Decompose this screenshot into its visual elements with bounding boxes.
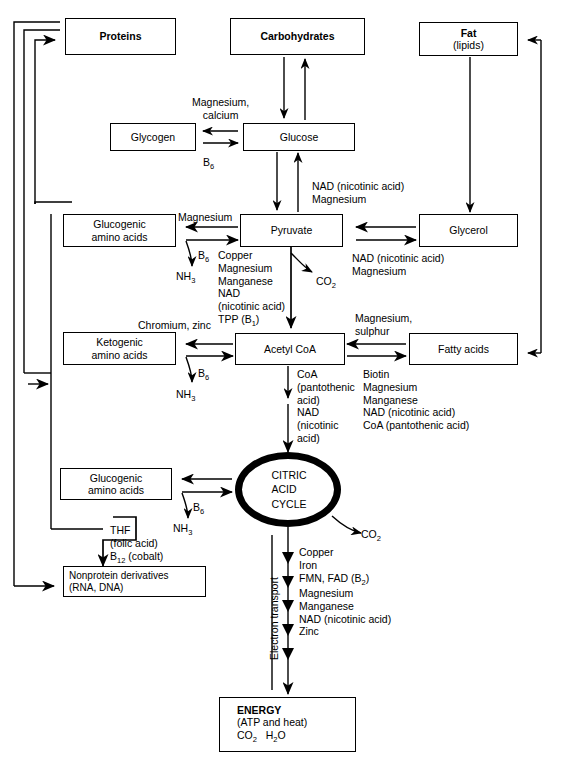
label-magnesium-sulphur: Magnesium,sulphur xyxy=(355,312,412,338)
label-b6-cycle-glucogenic: B6 xyxy=(193,501,204,516)
label-nh3-ketogenic: NH3 xyxy=(176,388,195,403)
node-glucogenic-1-line2: amino acids xyxy=(91,231,147,243)
node-fat-label: Fat xyxy=(461,27,477,39)
label-nh3-cycle-glucogenic: NH3 xyxy=(173,522,192,537)
node-pyruvate[interactable]: Pyruvate xyxy=(240,214,343,247)
label-fatty-acid-cofactors: Biotin Magnesium Manganese NAD (nicotini… xyxy=(363,368,469,432)
citric-line2: ACID xyxy=(271,482,306,496)
node-ketogenic-line1: Ketogenic xyxy=(96,336,143,348)
node-energy-line1: ENERGY xyxy=(237,704,281,716)
label-co2-cycle: CO2 xyxy=(361,528,381,543)
node-ketogenic-amino-acids[interactable]: Ketogenic amino acids xyxy=(63,332,176,365)
node-energy-line2: (ATP and heat) xyxy=(237,716,307,728)
node-glucogenic-amino-acids-2[interactable]: Glucogenic amino acids xyxy=(60,468,172,500)
node-glucogenic-2-line1: Glucogenic xyxy=(90,472,143,484)
node-energy-line3: CO2 H2O xyxy=(237,729,286,745)
citric-acid-cycle-text: CITRIC ACID CYCLE xyxy=(269,468,306,511)
label-acetyl-to-cycle-cofactors: CoA(pantothenicacid)NAD(nicotinicacid) xyxy=(297,368,355,445)
citric-line3: CYCLE xyxy=(271,497,306,511)
label-b6-ketogenic: B6 xyxy=(198,367,209,382)
label-magnesium-calcium: Magnesium,calcium xyxy=(192,96,249,122)
node-ketogenic-line2: amino acids xyxy=(91,349,147,361)
node-glycerol-label: Glycerol xyxy=(449,224,488,236)
label-electron-transport: Electron transport xyxy=(268,577,280,660)
node-glucose-label: Glucose xyxy=(280,131,319,143)
figure-canvas: Proteins Carbohydrates Fat (lipids) Glyc… xyxy=(0,0,578,764)
node-glycerol[interactable]: Glycerol xyxy=(419,214,518,247)
node-glucogenic-2-line2: amino acids xyxy=(88,484,144,496)
label-chromium-zinc: Chromium, zinc xyxy=(138,319,211,332)
node-glucose[interactable]: Glucose xyxy=(243,123,355,151)
node-fat-sublabel: (lipids) xyxy=(453,39,484,51)
node-proteins[interactable]: Proteins xyxy=(65,18,176,55)
label-electron-transport-cofactors: Copper Iron FMN, FAD (B2) Magnesium Mang… xyxy=(299,546,391,638)
label-pyruvate-to-acetyl-cofactors: Copper Magnesium Manganese NAD (nicotini… xyxy=(218,249,285,328)
connector-layer xyxy=(0,0,578,764)
node-glycogen-label: Glycogen xyxy=(131,131,175,143)
label-magnesium-pyruvate-glucogenic: Magnesium xyxy=(178,211,232,224)
label-b6-glycogen: B6 xyxy=(203,156,214,171)
citric-line1: CITRIC xyxy=(271,468,306,482)
node-citric-acid-cycle[interactable]: CITRIC ACID CYCLE xyxy=(235,452,341,527)
node-energy[interactable]: ENERGY (ATP and heat) CO2 H2O xyxy=(219,697,356,752)
label-b6-glucogenic: B6 xyxy=(198,249,209,264)
node-glucogenic-amino-acids-1[interactable]: Glucogenic amino acids xyxy=(63,214,176,247)
label-nad-magnesium-glycerol: NAD (nicotinic acid)Magnesium xyxy=(352,252,444,278)
node-nonprotein-line2: (RNA, DNA) xyxy=(69,582,123,594)
node-pyruvate-label: Pyruvate xyxy=(271,224,312,236)
node-carbohydrates-label: Carbohydrates xyxy=(260,30,334,42)
node-fatty-acids[interactable]: Fatty acids xyxy=(409,333,518,365)
node-fatty-acids-label: Fatty acids xyxy=(438,343,489,355)
label-thf-folic-acid: THF(folic acid) xyxy=(110,524,158,550)
node-carbohydrates[interactable]: Carbohydrates xyxy=(230,18,365,55)
node-acetyl-coa-label: Acetyl CoA xyxy=(264,343,316,355)
node-nonprotein-derivatives[interactable]: Nonprotein derivatives (RNA, DNA) xyxy=(63,566,206,597)
node-glycogen[interactable]: Glycogen xyxy=(110,123,196,151)
label-nad-magnesium-glucose-pyruvate: NAD (nicotinic acid)Magnesium xyxy=(312,180,404,206)
node-glucogenic-1-line1: Glucogenic xyxy=(93,218,146,230)
label-co2-pyruvate: CO2 xyxy=(316,275,336,290)
label-b12-cobalt: B12 (cobalt) xyxy=(110,550,163,565)
label-nh3-glucogenic: NH3 xyxy=(176,270,195,285)
node-acetyl-coa[interactable]: Acetyl CoA xyxy=(235,333,345,365)
node-fat[interactable]: Fat (lipids) xyxy=(419,22,518,56)
node-proteins-label: Proteins xyxy=(99,30,141,42)
node-nonprotein-line1: Nonprotein derivatives xyxy=(69,570,169,582)
